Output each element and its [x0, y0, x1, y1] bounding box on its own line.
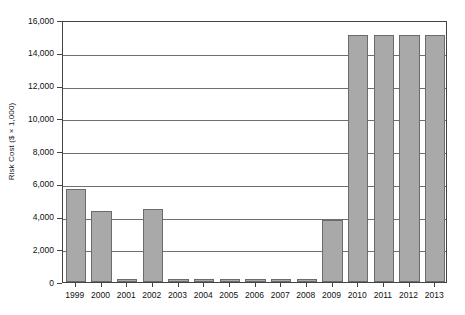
x-tick-mark — [178, 283, 179, 287]
bar-2006 — [245, 279, 266, 282]
bar-2000 — [91, 211, 112, 282]
bar-2003 — [168, 279, 189, 282]
x-tick-mark — [357, 283, 358, 287]
x-axis: 1999200020012002200320042005200620072008… — [62, 283, 447, 315]
x-tick-mark — [203, 283, 204, 287]
y-tick-label: 4,000 — [33, 213, 54, 222]
x-tick-label-2007: 2007 — [271, 290, 290, 300]
y-tick-label: 6,000 — [33, 180, 54, 189]
x-tick-label-2008: 2008 — [296, 290, 315, 300]
bar-2001 — [117, 279, 138, 282]
plot-area — [62, 21, 447, 283]
x-tick-mark — [434, 283, 435, 287]
x-tick-mark — [332, 283, 333, 287]
x-tick-mark — [101, 283, 102, 287]
bar-2002 — [143, 209, 164, 282]
x-tick-label-2001: 2001 — [117, 290, 136, 300]
x-tick-label-2003: 2003 — [168, 290, 187, 300]
bar-2009 — [322, 220, 343, 282]
x-tick-label-2010: 2010 — [348, 290, 367, 300]
x-tick-label-2002: 2002 — [142, 290, 161, 300]
y-tick-label: 10,000 — [28, 115, 54, 124]
bar-2012 — [399, 35, 420, 282]
risk-cost-bar-chart: Risk Cost ($ × 1,000) 02,0004,0006,0008,… — [0, 0, 465, 315]
y-tick-label: 12,000 — [28, 82, 54, 91]
y-tick-label: 14,000 — [28, 49, 54, 58]
x-tick-label-2005: 2005 — [219, 290, 238, 300]
x-tick-label-2009: 2009 — [322, 290, 341, 300]
y-tick-label: 16,000 — [28, 17, 54, 26]
bar-2007 — [271, 279, 292, 282]
x-tick-label-2013: 2013 — [425, 290, 444, 300]
x-tick-mark — [280, 283, 281, 287]
bar-2011 — [374, 35, 395, 282]
bar-1999 — [66, 189, 87, 282]
x-tick-mark — [383, 283, 384, 287]
x-tick-label-2011: 2011 — [374, 290, 392, 300]
y-tick-label: 2,000 — [33, 246, 54, 255]
bar-2005 — [220, 279, 241, 282]
x-tick-label-1999: 1999 — [65, 290, 84, 300]
x-tick-mark — [126, 283, 127, 287]
x-tick-label-2012: 2012 — [399, 290, 418, 300]
bar-2004 — [194, 279, 215, 282]
bar-2013 — [425, 35, 446, 282]
y-tick-label: 8,000 — [33, 148, 54, 157]
x-tick-label-2004: 2004 — [194, 290, 213, 300]
x-tick-mark — [229, 283, 230, 287]
bar-2008 — [297, 279, 318, 282]
x-tick-mark — [152, 283, 153, 287]
x-tick-mark — [75, 283, 76, 287]
x-tick-label-2000: 2000 — [91, 290, 110, 300]
x-tick-mark — [306, 283, 307, 287]
x-tick-mark — [255, 283, 256, 287]
bar-2010 — [348, 35, 369, 282]
x-tick-mark — [409, 283, 410, 287]
y-axis-ticks: 02,0004,0006,0008,00010,00012,00014,0001… — [0, 0, 62, 315]
x-tick-label-2006: 2006 — [245, 290, 264, 300]
y-tick-label: 0 — [49, 279, 54, 288]
